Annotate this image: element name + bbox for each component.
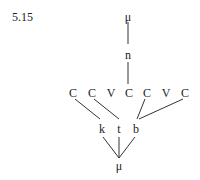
- consonant-t: t: [112, 123, 126, 135]
- consonant-b: b: [129, 123, 143, 135]
- skeleton-slot-1: C: [66, 87, 80, 99]
- skeleton-slot-6: V: [159, 87, 173, 99]
- n-label: n: [121, 49, 135, 61]
- root-mu-label: μ: [112, 160, 126, 172]
- skeleton-slot-4: C: [122, 87, 136, 99]
- skeleton-slot-7: C: [178, 87, 192, 99]
- top-mu-label: μ: [121, 11, 135, 23]
- consonant-k: k: [95, 123, 109, 135]
- skeleton-slot-5: C: [140, 87, 154, 99]
- skeleton-slot-3: V: [104, 87, 118, 99]
- skeleton-slot-2: C: [85, 87, 99, 99]
